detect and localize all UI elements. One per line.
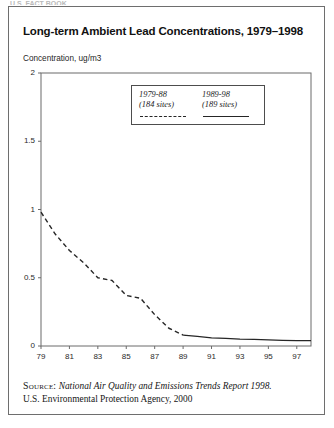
y-tick-label: 1 xyxy=(13,205,35,214)
x-tick-label: 81 xyxy=(59,352,79,361)
source-agency: U.S. Environmental Protection Agency, 20… xyxy=(23,394,192,404)
line-chart-svg xyxy=(9,7,326,416)
series-line-1979-88 xyxy=(41,212,183,335)
legend-swatch-dashed xyxy=(140,116,186,117)
y-tick-label: 2 xyxy=(13,68,35,77)
legend-swatch-solid xyxy=(203,116,249,117)
x-tick-label: 95 xyxy=(258,352,278,361)
x-tick-label: 83 xyxy=(88,352,108,361)
source-kicker: Source: xyxy=(23,380,56,391)
clipped-page-header: U.S. FACT BOOK xyxy=(10,0,130,5)
x-tick-label: 87 xyxy=(145,352,165,361)
x-tick-label: 97 xyxy=(287,352,307,361)
legend-entry-1979-88: 1979-88 (184 sites) xyxy=(139,90,201,110)
figure-frame: Long-term Ambient Lead Concentrations, 1… xyxy=(8,6,325,415)
x-tick-label: 93 xyxy=(230,352,250,361)
legend-period-label: 1979-88 xyxy=(139,90,201,100)
plot-area: 00.511.52 79818385878991939597 xyxy=(9,7,326,416)
chart-legend: 1979-88 (184 sites) 1989-98 (189 sites) xyxy=(131,85,265,125)
legend-sites-label: (189 sites) xyxy=(202,100,264,110)
x-tick-label: 85 xyxy=(116,352,136,361)
x-tick-label: 79 xyxy=(31,352,51,361)
legend-sites-label: (184 sites) xyxy=(139,100,201,110)
series-line-1989-98 xyxy=(183,335,311,340)
x-tick-label: 91 xyxy=(202,352,222,361)
y-tick-label: 0.5 xyxy=(13,273,35,282)
y-tick-label: 1.5 xyxy=(13,136,35,145)
legend-entry-1989-98: 1989-98 (189 sites) xyxy=(202,90,264,110)
x-tick-label: 89 xyxy=(173,352,193,361)
y-tick-label: 0 xyxy=(13,341,35,350)
source-note: Source: National Air Quality and Emissio… xyxy=(23,380,318,405)
legend-period-label: 1989-98 xyxy=(202,90,264,100)
source-report-title: National Air Quality and Emissions Trend… xyxy=(59,381,272,391)
